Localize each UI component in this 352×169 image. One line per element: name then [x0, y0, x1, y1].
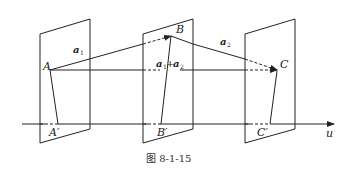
- point-label-a-prime: A′: [48, 126, 60, 139]
- svg-text:a: a: [220, 36, 226, 47]
- figure-caption: 图 8-1-15: [146, 153, 191, 164]
- point-label-c-prime: C′: [257, 126, 268, 139]
- vector-label-a1: a 1: [73, 44, 84, 56]
- point-label-a: A: [42, 60, 51, 73]
- svg-text:1: 1: [80, 49, 84, 56]
- point-label-b: B: [175, 23, 184, 36]
- segment-c-c-prime: [270, 71, 277, 124]
- point-label-b-prime: B′: [156, 126, 168, 139]
- svg-text:2: 2: [227, 41, 231, 48]
- vector-addition-diagram: u A B C A′ B′ C′ a 1 a: [0, 0, 352, 169]
- svg-text:a: a: [73, 44, 79, 55]
- axis-label-u: u: [326, 127, 333, 140]
- vector-a1: [50, 36, 171, 70]
- segment-a-a-prime: [50, 70, 58, 124]
- point-label-c: C: [280, 58, 289, 71]
- u-axis: u: [22, 124, 334, 140]
- svg-text:a: a: [156, 58, 162, 69]
- svg-text:a: a: [173, 58, 179, 69]
- segment-b-b-prime: [161, 36, 171, 124]
- vector-label-a2: a 2: [220, 36, 231, 48]
- vector-label-sum: a 1 + a 2: [156, 58, 184, 70]
- svg-text:2: 2: [180, 63, 184, 70]
